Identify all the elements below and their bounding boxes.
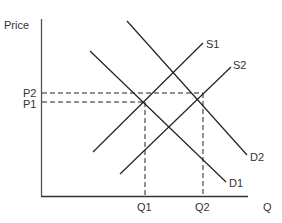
- x-axis-label: Q: [263, 201, 272, 213]
- supply-curve-s2: [120, 67, 231, 174]
- supply-demand-diagram: Price Q P2 P1 Q1 Q2 S1 S2 D2 D1: [0, 0, 282, 223]
- s1-label: S1: [206, 38, 219, 50]
- demand-curve-d1: [90, 51, 226, 182]
- s2-label: S2: [233, 59, 246, 71]
- d2-label: D2: [250, 151, 264, 163]
- y-axis-label: Price: [4, 19, 29, 31]
- d1-label: D1: [229, 177, 243, 189]
- q1-label: Q1: [137, 201, 152, 213]
- p1-label: P1: [23, 98, 36, 110]
- supply-curve-s1: [93, 43, 203, 152]
- q2-label: Q2: [195, 201, 210, 213]
